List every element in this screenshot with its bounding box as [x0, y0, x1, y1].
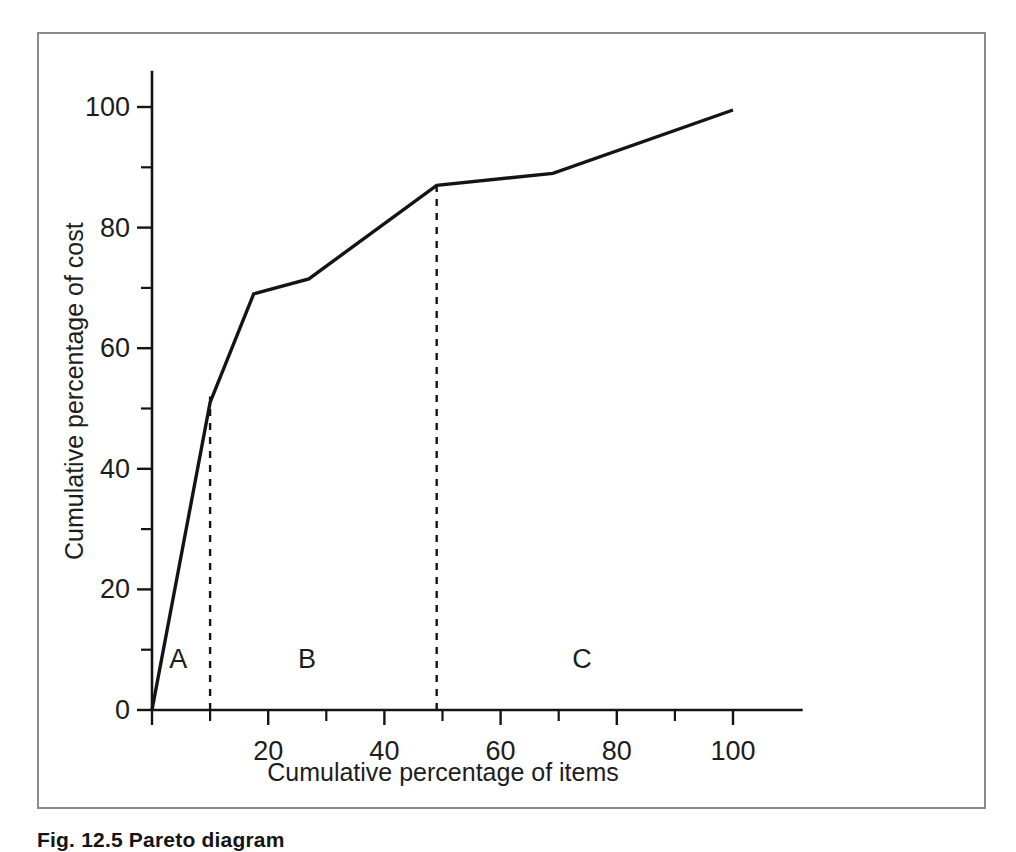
figure-caption: Fig. 12.5 Pareto diagram — [37, 828, 285, 852]
region-b: B — [298, 643, 316, 674]
x-axis-title: Cumulative percentage of items — [152, 758, 734, 787]
y-tick-label: 0 — [62, 695, 130, 726]
y-tick-label: 20 — [62, 574, 130, 605]
region-c: C — [572, 643, 592, 674]
y-axis-title: Cumulative percentage of cost — [60, 222, 89, 560]
figure-frame — [37, 32, 986, 809]
y-tick-label: 100 — [62, 92, 130, 123]
region-a: A — [169, 643, 187, 674]
